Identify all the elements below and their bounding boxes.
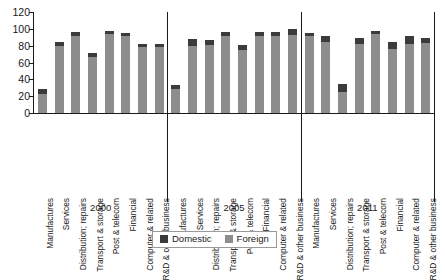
bar: [321, 36, 330, 113]
legend-swatch-domestic: [160, 235, 168, 243]
bar: [371, 31, 380, 113]
bar: [55, 42, 64, 113]
bar-segment-domestic: [255, 32, 264, 35]
bar: [105, 31, 114, 113]
legend-item-domestic: Domestic: [160, 234, 212, 244]
bar: [188, 39, 197, 113]
legend-item-foreign: Foreign: [225, 234, 269, 244]
bar-segment-domestic: [221, 32, 230, 35]
bar: [171, 85, 180, 113]
y-axis-tick-mark: [29, 96, 34, 97]
bar-segment-domestic: [421, 38, 430, 43]
bar-segment-domestic: [238, 45, 247, 50]
bar: [255, 32, 264, 113]
y-axis-tick-mark: [29, 46, 34, 47]
bar-segment-domestic: [71, 32, 80, 35]
chart-legend: Domestic Foreign: [152, 231, 277, 248]
bar: [405, 36, 414, 113]
bar-segment-domestic: [55, 42, 64, 45]
group-year-label: 2000: [34, 202, 167, 213]
bar: [388, 42, 397, 113]
plot-area: [34, 12, 434, 113]
bar: [221, 32, 230, 113]
group-separator: [301, 12, 302, 202]
y-axis-tick-mark: [29, 113, 34, 114]
bar-segment-domestic: [388, 42, 397, 49]
legend-swatch-foreign: [225, 235, 233, 243]
bar: [88, 53, 97, 113]
bar-segment-domestic: [271, 32, 280, 35]
bar-segment-domestic: [288, 29, 297, 35]
bar: [138, 44, 147, 113]
bar-segment-domestic: [105, 31, 114, 34]
bar: [338, 84, 347, 113]
x-axis-category-labels: ManufacturesServicesDistribution; repair…: [34, 114, 434, 200]
bar-segment-domestic: [155, 44, 164, 47]
bar-segment-domestic: [321, 36, 330, 43]
bar: [355, 38, 364, 113]
group-separator: [167, 12, 168, 202]
bar-segment-domestic: [171, 85, 180, 89]
y-axis-tick-label: 120: [12, 7, 30, 17]
plot-right-edge: [434, 12, 435, 202]
bar: [271, 32, 280, 113]
legend-label-foreign: Foreign: [237, 234, 269, 244]
bar-segment-domestic: [205, 40, 214, 45]
bar-segment-domestic: [121, 33, 130, 36]
bar-segment-domestic: [138, 44, 147, 47]
bar-segment-domestic: [371, 31, 380, 34]
y-axis: 020406080100120: [0, 0, 30, 120]
bar: [155, 44, 164, 113]
bar-segment-domestic: [38, 89, 47, 93]
y-axis-tick-mark: [29, 79, 34, 80]
y-axis-tick-mark: [29, 29, 34, 30]
bar-segment-domestic: [188, 39, 197, 46]
bar-segment-domestic: [305, 33, 314, 36]
y-axis-tick-mark: [29, 63, 34, 64]
legend-label-domestic: Domestic: [172, 234, 212, 244]
bar: [71, 32, 80, 113]
bar: [238, 45, 247, 113]
bar-segment-domestic: [338, 84, 347, 92]
bar: [121, 33, 130, 113]
group-year-label: 2005: [167, 202, 300, 213]
bar: [205, 40, 214, 113]
bar: [305, 33, 314, 113]
y-axis-tick-label: 100: [12, 24, 30, 34]
bar: [38, 89, 47, 113]
group-year-label: 2011: [301, 202, 434, 213]
y-axis-tick-mark: [29, 12, 34, 13]
bar: [421, 38, 430, 113]
bar-segment-domestic: [405, 36, 414, 44]
bar-segment-domestic: [355, 38, 364, 44]
bar: [288, 29, 297, 113]
bar-segment-domestic: [88, 53, 97, 57]
